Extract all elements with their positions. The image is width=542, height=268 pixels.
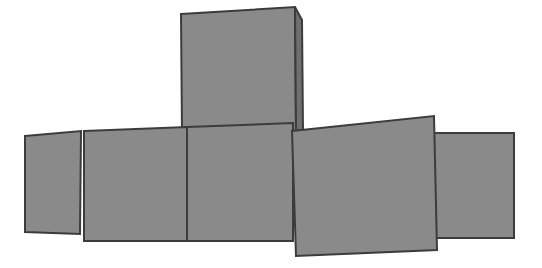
panel-top-tall	[181, 7, 296, 133]
shape-canvas	[0, 0, 542, 268]
panel-left-back	[25, 131, 81, 234]
panel-center-right	[187, 123, 293, 241]
shape-scene	[0, 0, 542, 268]
panel-right-back	[434, 133, 514, 238]
panel-center-left	[84, 127, 187, 241]
panel-top-tall-side	[295, 7, 303, 131]
panel-front-right	[292, 116, 437, 256]
